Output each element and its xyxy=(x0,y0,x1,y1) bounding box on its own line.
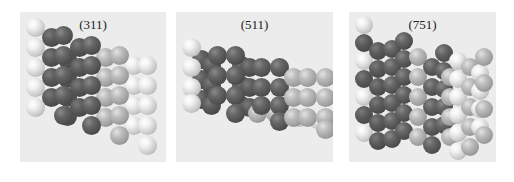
atom-sphere xyxy=(226,66,245,85)
atom-sphere xyxy=(252,96,271,115)
atom-sphere xyxy=(298,88,317,107)
atom-sphere xyxy=(138,116,157,135)
atom-sphere xyxy=(226,86,245,105)
atom-sphere xyxy=(138,96,157,115)
atom-sphere xyxy=(54,66,73,85)
atom-sphere xyxy=(138,136,157,155)
atom-sphere xyxy=(182,38,201,57)
atom-sphere xyxy=(475,48,493,66)
atom-sphere xyxy=(252,58,271,77)
panel-title: (751) xyxy=(349,17,496,33)
atom-sphere xyxy=(54,46,73,65)
panel-311: (311) xyxy=(20,12,166,162)
atom-sphere xyxy=(110,86,129,105)
atom-sphere xyxy=(475,126,493,144)
atom-sphere xyxy=(298,108,317,127)
atom-sphere xyxy=(82,56,101,75)
atom-sphere xyxy=(110,46,129,65)
atom-sphere xyxy=(82,36,101,55)
atom-sphere xyxy=(54,106,73,125)
panel-511: (511) xyxy=(176,12,333,162)
atom-sphere xyxy=(110,66,129,85)
atom-sphere xyxy=(208,66,227,85)
atom-sphere xyxy=(182,58,201,77)
atom-sphere xyxy=(423,136,441,154)
atom-sphere xyxy=(82,116,101,135)
atom-sphere xyxy=(182,94,201,113)
atom-sphere xyxy=(110,126,129,145)
atom-sphere xyxy=(316,88,333,107)
atom-sphere xyxy=(110,106,129,125)
atom-sphere xyxy=(138,76,157,95)
panel-title: (311) xyxy=(20,17,166,33)
panel-title: (511) xyxy=(176,17,333,33)
atom-sphere xyxy=(82,76,101,95)
atom-sphere xyxy=(226,46,245,65)
atom-sphere xyxy=(82,96,101,115)
atom-sphere xyxy=(298,68,317,87)
atom-sphere xyxy=(475,100,493,118)
atom-sphere xyxy=(395,32,413,50)
atom-sphere xyxy=(316,68,333,87)
atom-sphere xyxy=(252,78,271,97)
atom-sphere xyxy=(208,46,227,65)
panel-751: (751) xyxy=(349,12,496,162)
atom-sphere xyxy=(54,86,73,105)
atom-sphere xyxy=(475,74,493,92)
atom-sphere xyxy=(138,56,157,75)
atom-sphere xyxy=(226,104,245,123)
atom-sphere xyxy=(208,86,227,105)
atom-sphere xyxy=(316,120,333,139)
